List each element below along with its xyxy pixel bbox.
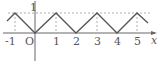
x-tick-minus1: -1 xyxy=(5,35,16,48)
x-axis-label: x xyxy=(151,34,158,47)
x-tick-1: 1 xyxy=(53,35,60,48)
x-tick-5: 5 xyxy=(134,35,141,48)
triangle-wave-series xyxy=(7,13,148,33)
origin-label: O xyxy=(25,35,34,48)
chart-svg: 1 -1 O 1 2 3 4 5 x xyxy=(0,0,164,83)
y-tick-1: 1 xyxy=(30,1,37,14)
x-tick-2: 2 xyxy=(73,35,80,48)
x-tick-4: 4 xyxy=(114,35,121,48)
x-tick-3: 3 xyxy=(94,35,101,48)
triangle-wave-plot: 1 -1 O 1 2 3 4 5 x xyxy=(0,0,164,83)
